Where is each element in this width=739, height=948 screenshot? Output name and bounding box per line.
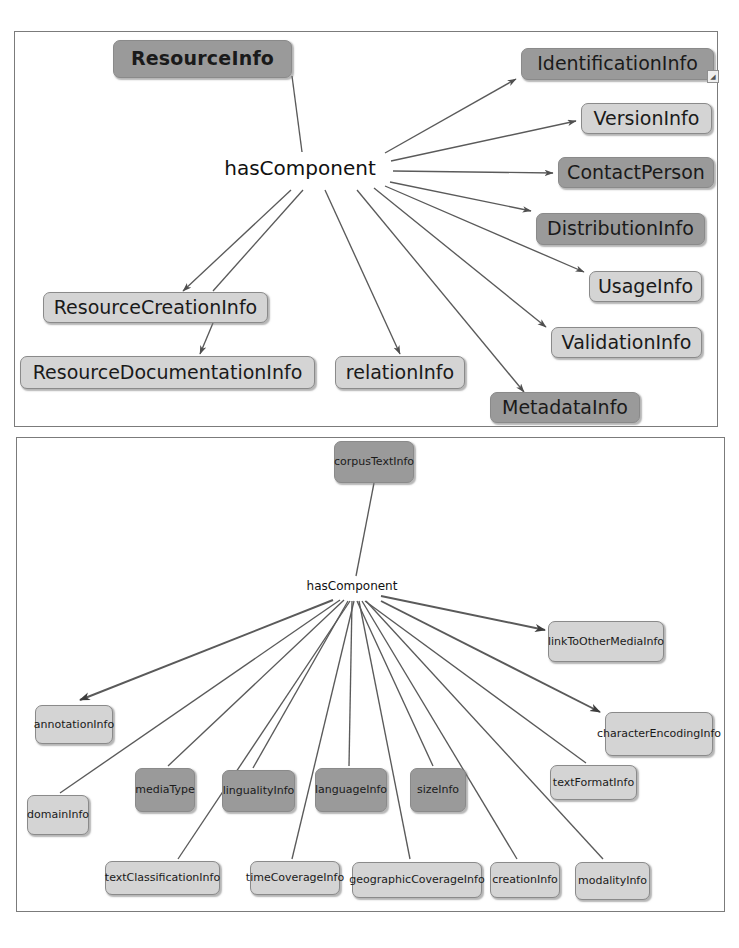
node-metadatainfo[interactable]: MetadataInfo bbox=[490, 392, 640, 423]
node-creationinfo[interactable]: creationInfo bbox=[490, 862, 560, 898]
diagram-canvas: ResourceInfo hasComponent Identification… bbox=[0, 0, 739, 948]
node-distributioninfo[interactable]: DistributionInfo bbox=[536, 213, 705, 245]
node-resourceinfo[interactable]: ResourceInfo bbox=[113, 40, 292, 78]
node-usageinfo[interactable]: UsageInfo bbox=[589, 271, 702, 302]
node-resourcedocumentationinfo[interactable]: ResourceDocumentationInfo bbox=[20, 356, 315, 389]
node-annotationinfo[interactable]: annotationInfo bbox=[35, 705, 113, 744]
node-lingualityinfo[interactable]: lingualityInfo bbox=[222, 770, 295, 812]
node-languageinfo[interactable]: languageInfo bbox=[315, 768, 387, 812]
node-domaininfo[interactable]: domainInfo bbox=[27, 795, 89, 835]
node-textformatinfo[interactable]: textFormatInfo bbox=[550, 765, 637, 800]
node-resourcecreationinfo[interactable]: ResourceCreationInfo bbox=[43, 292, 268, 323]
node-geographiccoverageinfo[interactable]: geographicCoverageInfo bbox=[352, 862, 482, 898]
node-textclassificationinfo[interactable]: textClassificationInfo bbox=[105, 861, 220, 895]
node-identificationinfo[interactable]: IdentificationInfo bbox=[521, 48, 714, 80]
node-sizeinfo[interactable]: sizeInfo bbox=[410, 768, 466, 812]
node-characterencodinginfo[interactable]: characterEncodingInfo bbox=[605, 712, 713, 756]
node-relationinfo[interactable]: relationInfo bbox=[335, 356, 465, 389]
node-linktoothermediainfo[interactable]: linkToOtherMediaInfo bbox=[548, 621, 664, 662]
node-timecoverageinfo[interactable]: timeCoverageInfo bbox=[250, 861, 340, 895]
relation-label-hascomponent-bottom: hasComponent bbox=[302, 576, 402, 596]
node-contactperson[interactable]: ContactPerson bbox=[558, 157, 714, 188]
node-versioninfo[interactable]: VersionInfo bbox=[581, 103, 712, 134]
node-modalityinfo[interactable]: modalityInfo bbox=[575, 862, 650, 900]
node-mediatype[interactable]: mediaType bbox=[135, 768, 195, 812]
corner-mark-icon: ◢ bbox=[707, 70, 719, 83]
node-corpustextinfo[interactable]: corpusTextInfo bbox=[334, 441, 414, 483]
relation-label-hascomponent-top: hasComponent bbox=[215, 152, 385, 184]
panel-corpustextinfo bbox=[16, 437, 725, 912]
node-validationinfo[interactable]: ValidationInfo bbox=[551, 327, 702, 358]
